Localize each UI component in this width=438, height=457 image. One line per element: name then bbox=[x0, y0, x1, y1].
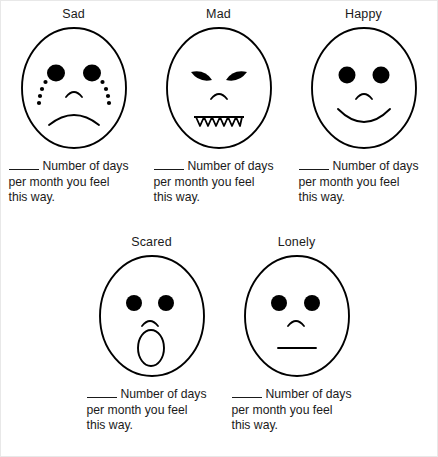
answer-blank[interactable] bbox=[299, 158, 329, 170]
answer-blank[interactable] bbox=[87, 386, 117, 398]
caption-scared: Number of days per month you feel this w… bbox=[84, 386, 220, 434]
emotion-cell-scared[interactable]: Scared Number of days per month you feel… bbox=[79, 235, 224, 434]
caption-lonely: Number of days per month you feel this w… bbox=[229, 386, 365, 434]
answer-blank[interactable] bbox=[154, 158, 184, 170]
sad-face bbox=[18, 25, 130, 151]
eye-right bbox=[304, 295, 320, 311]
answer-blank[interactable] bbox=[232, 386, 262, 398]
emotion-cell-sad[interactable]: Sad bbox=[1, 7, 146, 206]
emotion-label-scared: Scared bbox=[131, 235, 172, 250]
caption-sad: Number of days per month you feel this w… bbox=[6, 158, 142, 206]
emotion-row-top: Sad bbox=[1, 7, 438, 206]
eye-left bbox=[338, 67, 355, 84]
emotion-label-lonely: Lonely bbox=[278, 235, 316, 250]
emotion-label-happy: Happy bbox=[345, 7, 382, 22]
eye-right bbox=[158, 295, 174, 311]
eye-left bbox=[271, 295, 287, 311]
emotion-label-mad: Mad bbox=[206, 7, 231, 22]
worksheet-page: Sad bbox=[0, 0, 438, 457]
caption-mad: Number of days per month you feel this w… bbox=[151, 158, 287, 206]
mad-face bbox=[163, 25, 275, 151]
emotion-row-bottom: Scared Number of days per month you feel… bbox=[79, 235, 438, 434]
emotion-cell-happy[interactable]: Happy Number of days per month you feel … bbox=[291, 7, 436, 206]
caption-happy: Number of days per month you feel this w… bbox=[296, 158, 432, 206]
happy-face bbox=[308, 25, 420, 151]
lonely-face bbox=[241, 253, 353, 379]
answer-blank[interactable] bbox=[9, 158, 39, 170]
emotion-label-sad: Sad bbox=[62, 7, 85, 22]
eye-left bbox=[126, 295, 142, 311]
eye-left bbox=[47, 65, 65, 82]
mouth-open-oval bbox=[138, 330, 164, 366]
emotion-cell-lonely[interactable]: Lonely Number of days per month you feel… bbox=[224, 235, 369, 434]
eye-right bbox=[83, 65, 101, 82]
emotion-cell-mad[interactable]: Mad Number of days per month you feel th… bbox=[146, 7, 291, 206]
scared-face bbox=[96, 253, 208, 379]
eye-right bbox=[372, 67, 389, 84]
